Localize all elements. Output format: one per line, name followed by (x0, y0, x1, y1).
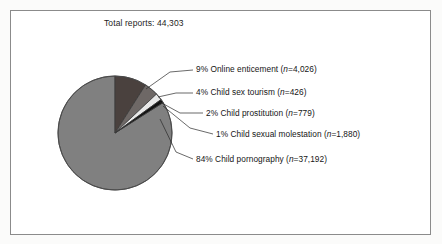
pie-label-count-4: 37,192 (299, 154, 325, 164)
page-title: Total reports: 44,303 (104, 18, 184, 28)
figure-page: Total reports: 44,303 9% Online e (0, 0, 442, 244)
pie-label-child-pornography: 84% Child pornography (n=37,192) (196, 154, 327, 164)
pie-label-prefix-3: 1% Child sexual molestation ( (216, 129, 327, 139)
pie-label-prefix-2: 2% Child prostitution ( (206, 108, 288, 118)
pie-label-prefix-4: 84% Child pornography ( (196, 154, 289, 164)
pie-label-suffix-0: ) (314, 64, 317, 74)
leader-line-online-enticement (146, 70, 193, 89)
pie-slices (58, 76, 172, 190)
pie-label-child-sexual-molestation: 1% Child sexual molestation (n=1,880) (216, 129, 360, 139)
pie-label-suffix-4: ) (324, 154, 327, 164)
pie-label-child-prostitution: 2% Child prostitution (n=779) (206, 108, 315, 118)
pie-label-count-0: 4,026 (293, 64, 314, 74)
pie-label-prefix-0: 9% Online enticement ( (196, 64, 283, 74)
pie-label-prefix-1: 4% Child sex tourism ( (196, 87, 280, 97)
pie-label-child-sex-tourism: 4% Child sex tourism (n=426) (196, 87, 307, 97)
pie-label-suffix-3: ) (357, 129, 360, 139)
pie-label-count-1: 426 (290, 87, 304, 97)
pie-label-count-2: 779 (298, 108, 312, 118)
leader-line-child-sex-tourism (158, 93, 193, 97)
pie-chart (0, 0, 442, 244)
pie-label-suffix-2: ) (312, 108, 315, 118)
pie-label-suffix-1: ) (304, 87, 307, 97)
pie-label-count-3: 1,880 (336, 129, 357, 139)
pie-label-online-enticement: 9% Online enticement (n=4,026) (196, 64, 317, 74)
